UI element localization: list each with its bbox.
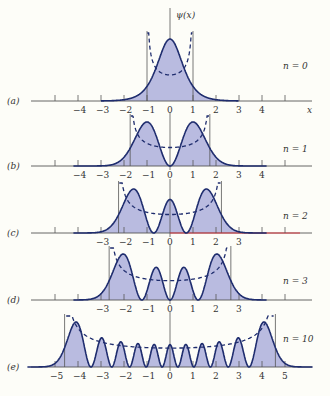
tick-label: −1 (142, 237, 155, 247)
tick-label: −2 (119, 105, 132, 115)
tick-label: −4 (73, 170, 87, 180)
tick-label: −2 (119, 170, 132, 180)
tick-label: 3 (236, 237, 242, 247)
tick-label: 0 (167, 170, 173, 180)
n-label: n = 10 (283, 334, 314, 344)
tick-label: 1 (190, 371, 196, 381)
panel-d: (d)n = 3−3−2−10123 (7, 244, 312, 314)
tick-label: 2 (213, 371, 219, 381)
x-axis-label: x (307, 105, 312, 115)
tick-label: 1 (190, 304, 196, 314)
n-label: n = 3 (283, 276, 308, 286)
tick-label: −4 (73, 371, 87, 381)
tick-label: −2 (119, 237, 132, 247)
tick-label: 1 (190, 105, 196, 115)
panel-c: (c)n = 2−3−2−10123 (7, 179, 312, 247)
n-label: n = 2 (283, 211, 308, 221)
tick-label: −1 (142, 170, 155, 180)
tick-label: −1 (142, 105, 155, 115)
tick-label: 5 (282, 371, 288, 381)
tick-label: −2 (119, 371, 132, 381)
n-label: n = 1 (283, 144, 308, 154)
tick-label: 3 (236, 371, 242, 381)
tick-label: −4 (73, 105, 87, 115)
tick-label: −3 (96, 170, 110, 180)
tick-label: 2 (213, 304, 219, 314)
panel-label: (a) (7, 96, 20, 106)
panels: (a)n = 0−4−3−2−101234x(b)n = 1−4−3−2−101… (7, 8, 314, 381)
tick-label: 2 (213, 237, 219, 247)
tick-label: −2 (119, 304, 132, 314)
tick-label: −3 (96, 304, 110, 314)
tick-label: −3 (96, 371, 110, 381)
tick-label: 3 (236, 304, 242, 314)
panel-e: (e)n = 10−5−4−3−2−1012345 (7, 312, 314, 381)
probability-fill (101, 39, 239, 101)
tick-label: 1 (190, 170, 196, 180)
tick-label: −1 (142, 304, 155, 314)
tick-label: 3 (236, 105, 242, 115)
tick-label: −3 (96, 237, 110, 247)
tick-label: 4 (259, 105, 265, 115)
tick-label: 3 (236, 170, 242, 180)
tick-label: 4 (259, 170, 265, 180)
tick-label: −1 (142, 371, 155, 381)
harmonic-oscillator-figure: (a)n = 0−4−3−2−101234x(b)n = 1−4−3−2−101… (0, 0, 330, 396)
panel-b: (b)n = 1−4−3−2−101234 (7, 112, 312, 180)
n-label: n = 0 (283, 61, 308, 71)
tick-label: −5 (50, 371, 64, 381)
tick-label: −3 (96, 105, 110, 115)
tick-label: 2 (213, 170, 219, 180)
panel-label: (d) (7, 295, 20, 305)
tick-label: 1 (190, 237, 196, 247)
tick-label: 4 (259, 371, 265, 381)
psi-axis-label: ψ(x) (176, 10, 196, 20)
panel-label: (c) (7, 228, 20, 238)
panel-a: (a)n = 0−4−3−2−101234x (7, 31, 312, 115)
tick-label: 0 (167, 371, 173, 381)
tick-label: 2 (213, 105, 219, 115)
panel-label: (b) (7, 161, 20, 171)
panel-label: (e) (7, 362, 20, 372)
